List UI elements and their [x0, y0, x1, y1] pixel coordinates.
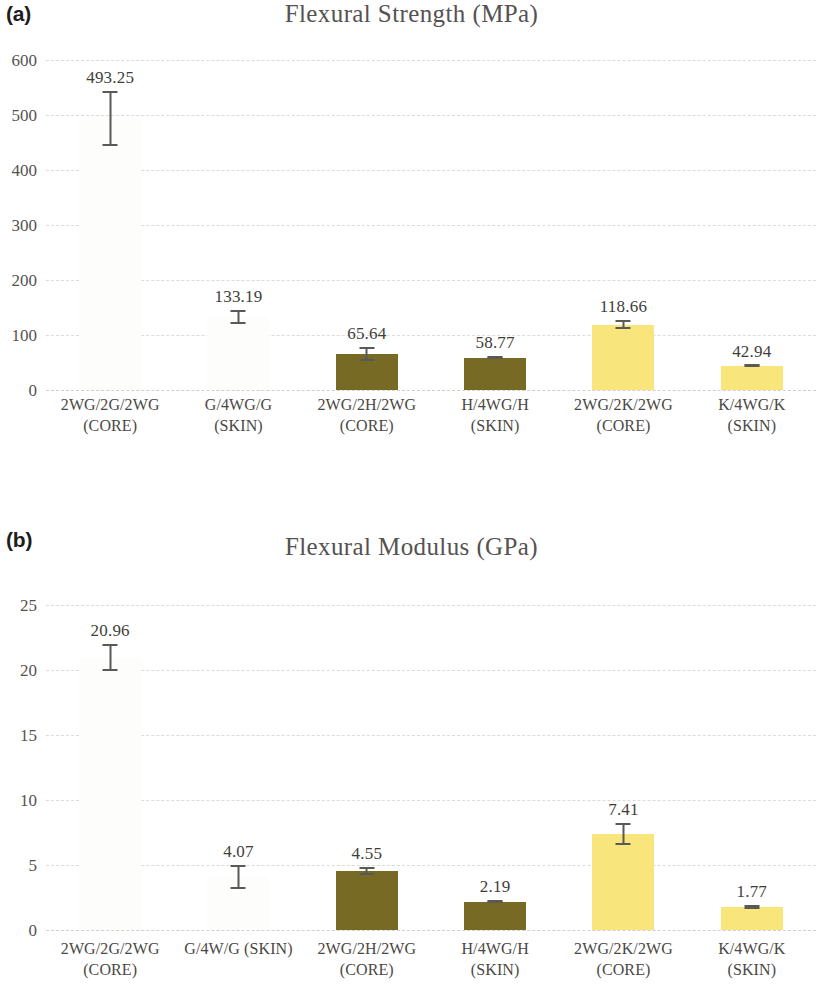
- y-axis-tick-label: 300: [12, 216, 38, 236]
- y-axis-tick-label: 500: [12, 106, 38, 126]
- bar-group: 7.41: [559, 605, 687, 930]
- bar-value-label: 7.41: [608, 800, 639, 820]
- error-bar-stem: [622, 823, 624, 845]
- error-bar-stem: [109, 91, 111, 146]
- error-bar: [488, 900, 503, 903]
- x-axis-category-label: G/4WG/G (SKIN): [174, 394, 302, 436]
- bar-group: 4.55: [303, 605, 431, 930]
- y-axis-tick-label: 5: [29, 856, 38, 876]
- chart-panel-b: (b) Flexural Modulus (GPa) 0510152025 20…: [0, 495, 823, 985]
- error-bar: [103, 91, 118, 146]
- bar-value-label: 133.19: [215, 287, 263, 307]
- y-axis-tick-label: 0: [29, 381, 38, 401]
- error-bar: [488, 356, 503, 359]
- x-axis-category-label: 2WG/2H/2WG (CORE): [303, 394, 431, 436]
- bar-value-label: 58.77: [476, 333, 515, 353]
- bar: [336, 871, 398, 930]
- bar: [464, 902, 526, 930]
- bar-group: 118.66: [559, 60, 687, 390]
- y-axis-tick-label: 0: [29, 921, 38, 941]
- bar: [79, 119, 141, 390]
- error-bar-cap-bottom: [103, 144, 118, 146]
- bar: [592, 325, 654, 390]
- bar-value-label: 4.55: [352, 844, 383, 864]
- error-bar-cap-bottom: [359, 359, 374, 361]
- error-bar-cap-bottom: [744, 365, 759, 367]
- plot-area-b: 0510152025 20.964.074.552.197.411.77: [46, 605, 816, 930]
- bar: [592, 834, 654, 930]
- x-axis-category-label: K/4WG/K (SKIN): [688, 938, 816, 980]
- error-bar: [616, 823, 631, 845]
- bar: [721, 366, 783, 390]
- bar-series-b: 20.964.074.552.197.411.77: [46, 605, 816, 930]
- error-bar-cap-top: [616, 320, 631, 322]
- chart-panel-a: (a) Flexural Strength (MPa) 010020030040…: [0, 0, 823, 495]
- bar: [207, 317, 269, 390]
- error-bar-cap-top: [103, 644, 118, 646]
- error-bar-cap-top: [103, 91, 118, 93]
- gridline: 0: [46, 390, 816, 391]
- error-bar-cap-top: [616, 823, 631, 825]
- error-bar: [231, 310, 246, 324]
- x-axis-category-label: 2WG/2G/2WG (CORE): [46, 938, 174, 980]
- x-axis-category-label: K/4WG/K (SKIN): [688, 394, 816, 436]
- error-bar: [231, 865, 246, 890]
- error-bar-cap-bottom: [231, 887, 246, 889]
- bar-value-label: 2.19: [480, 877, 511, 897]
- chart-title-a: Flexural Strength (MPa): [0, 0, 823, 28]
- bar-group: 1.77: [688, 605, 816, 930]
- plot-area-a: 0100200300400500600 493.25133.1965.6458.…: [46, 60, 816, 390]
- bar-group: 58.77: [431, 60, 559, 390]
- error-bar: [359, 347, 374, 361]
- error-bar-stem: [109, 644, 111, 671]
- bar-value-label: 4.07: [223, 842, 254, 862]
- bar-value-label: 118.66: [600, 297, 647, 317]
- error-bar: [744, 905, 759, 910]
- error-bar-cap-top: [231, 310, 246, 312]
- x-axis-category-label: 2WG/2H/2WG (CORE): [303, 938, 431, 980]
- error-bar-cap-bottom: [488, 901, 503, 903]
- error-bar-cap-bottom: [231, 322, 246, 324]
- bar: [721, 907, 783, 930]
- x-axis-category-label: 2WG/2G/2WG (CORE): [46, 394, 174, 436]
- y-axis-tick-label: 100: [12, 326, 38, 346]
- error-bar-cap-bottom: [488, 357, 503, 359]
- y-axis-tick-label: 400: [12, 161, 38, 181]
- x-axis-labels-a: 2WG/2G/2WG (CORE)G/4WG/G (SKIN)2WG/2H/2W…: [46, 394, 816, 436]
- x-axis-category-label: H/4WG/H (SKIN): [431, 938, 559, 980]
- bar-group: 20.96: [46, 605, 174, 930]
- bar-value-label: 65.64: [347, 324, 386, 344]
- error-bar: [744, 364, 759, 367]
- error-bar-cap-bottom: [744, 907, 759, 909]
- bar-value-label: 20.96: [91, 621, 130, 641]
- bar-value-label: 493.25: [86, 68, 134, 88]
- x-axis-labels-b: 2WG/2G/2WG (CORE)G/4W/G (SKIN)2WG/2H/2WG…: [46, 938, 816, 980]
- error-bar-cap-top: [359, 867, 374, 869]
- bar: [464, 358, 526, 390]
- y-axis-tick-label: 15: [20, 726, 37, 746]
- x-axis-category-label: 2WG/2K/2WG (CORE): [559, 938, 687, 980]
- bar-value-label: 42.94: [732, 342, 771, 362]
- error-bar-cap-top: [231, 865, 246, 867]
- error-bar-cap-bottom: [359, 873, 374, 875]
- error-bar: [103, 644, 118, 671]
- x-axis-category-label: H/4WG/H (SKIN): [431, 394, 559, 436]
- bar-group: 493.25: [46, 60, 174, 390]
- error-bar: [616, 320, 631, 329]
- bar-group: 133.19: [174, 60, 302, 390]
- y-axis-tick-label: 600: [12, 51, 38, 71]
- bar: [79, 658, 141, 930]
- bar-value-label: 1.77: [737, 882, 768, 902]
- error-bar-cap-bottom: [616, 843, 631, 845]
- error-bar: [359, 867, 374, 874]
- y-axis-tick-label: 20: [20, 661, 37, 681]
- error-bar-cap-bottom: [103, 669, 118, 671]
- error-bar-cap-bottom: [616, 327, 631, 329]
- bar-group: 42.94: [688, 60, 816, 390]
- x-axis-category-label: 2WG/2K/2WG (CORE): [559, 394, 687, 436]
- bar-group: 4.07: [174, 605, 302, 930]
- error-bar-cap-top: [359, 347, 374, 349]
- bar-group: 2.19: [431, 605, 559, 930]
- y-axis-tick-label: 25: [20, 596, 37, 616]
- bar-series-a: 493.25133.1965.6458.77118.6642.94: [46, 60, 816, 390]
